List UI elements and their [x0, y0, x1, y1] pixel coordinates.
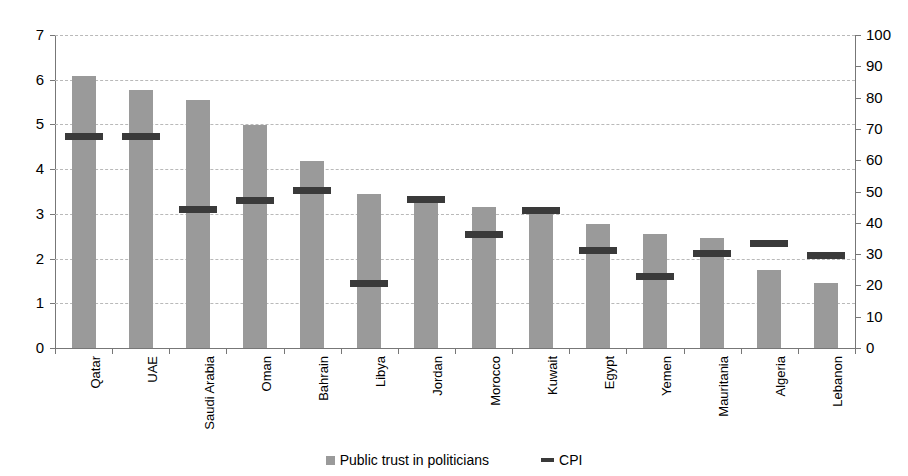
bar-public-trust: [72, 76, 96, 348]
y-axis-left-tick-label: 2: [0, 251, 44, 266]
y-axis-right-tick-mark: [856, 129, 861, 130]
legend-label-public-trust: Public trust in politicians: [340, 452, 489, 468]
y-axis-left-tick-label: 7: [0, 27, 44, 42]
x-axis-tick-mark: [855, 349, 856, 354]
cpi-marker: [579, 247, 617, 254]
bar-public-trust: [529, 210, 553, 348]
y-axis-right-tick-mark: [856, 348, 861, 349]
y-axis-left-tick-mark: [50, 35, 55, 36]
cpi-marker: [522, 207, 560, 214]
cpi-marker: [236, 197, 274, 204]
x-axis-tick-mark: [398, 349, 399, 354]
cpi-marker: [407, 196, 445, 203]
x-axis-category-label: Jordan: [431, 356, 444, 396]
y-axis-right-tick-mark: [856, 285, 861, 286]
y-axis-left-tick-label: 0: [0, 340, 44, 355]
plot-area: [55, 35, 855, 348]
bar-public-trust: [586, 224, 610, 348]
y-axis-right-tick-mark: [856, 192, 861, 193]
y-axis-left-tick-mark: [50, 169, 55, 170]
x-axis-tick-mark: [684, 349, 685, 354]
cpi-marker: [65, 133, 103, 140]
x-axis-category-label: Kuwait: [546, 356, 559, 395]
cpi-marker: [750, 240, 788, 247]
gridline: [55, 303, 855, 304]
cpi-marker: [350, 280, 388, 287]
y-axis-right-tick-mark: [856, 98, 861, 99]
bar-public-trust: [814, 283, 838, 348]
y-axis-left-tick-mark: [50, 303, 55, 304]
x-axis-tick-mark: [284, 349, 285, 354]
x-axis-tick-mark: [112, 349, 113, 354]
x-axis-tick-mark: [798, 349, 799, 354]
chart-title-cropped: [0, 0, 908, 9]
x-axis-tick-mark: [169, 349, 170, 354]
y-axis-right-tick-label: 90: [866, 58, 908, 73]
y-axis-right-tick-mark: [856, 317, 861, 318]
y-axis-right-tick-label: 60: [866, 152, 908, 167]
x-axis-category-label: Algeria: [774, 356, 787, 396]
bar-public-trust: [472, 207, 496, 348]
cpi-marker: [636, 273, 674, 280]
y-axis-right-tick-label: 50: [866, 184, 908, 199]
y-axis-right-tick-mark: [856, 254, 861, 255]
gridline: [55, 259, 855, 260]
x-axis-category-label: Egypt: [603, 356, 616, 389]
x-axis-category-label: UAE: [146, 356, 159, 383]
gridline: [55, 124, 855, 125]
bar-swatch-icon: [326, 456, 335, 465]
y-axis-right-tick-mark: [856, 66, 861, 67]
x-axis-category-label: Mauritania: [717, 356, 730, 417]
x-axis-tick-mark: [455, 349, 456, 354]
y-axis-right-tick-label: 70: [866, 121, 908, 136]
gridline: [55, 80, 855, 81]
x-axis-tick-mark: [226, 349, 227, 354]
bar-public-trust: [414, 200, 438, 348]
cpi-marker: [465, 231, 503, 238]
legend-item-public-trust: Public trust in politicians: [326, 452, 489, 468]
x-axis-category-label: Lebanon: [831, 356, 844, 407]
cpi-marker: [122, 133, 160, 140]
x-axis-tick-mark: [626, 349, 627, 354]
y-axis-left-tick-label: 5: [0, 116, 44, 131]
x-axis-category-label: Oman: [260, 356, 273, 391]
y-axis-right-tick-label: 100: [866, 27, 908, 42]
x-axis-tick-mark: [741, 349, 742, 354]
y-axis-left-tick-mark: [50, 124, 55, 125]
y-axis-right-tick-label: 30: [866, 246, 908, 261]
bar-public-trust: [129, 90, 153, 348]
y-axis-left-tick-mark: [50, 259, 55, 260]
y-axis-right-tick-label: 20: [866, 277, 908, 292]
x-axis-category-label: Saudi Arabia: [203, 356, 216, 430]
chart-legend: Public trust in politicians CPI: [0, 452, 908, 468]
legend-label-cpi: CPI: [559, 452, 582, 468]
legend-item-cpi: CPI: [541, 452, 582, 468]
y-axis-left-tick-mark: [50, 80, 55, 81]
cpi-marker: [179, 206, 217, 213]
y-axis-right-tick-label: 10: [866, 309, 908, 324]
x-axis-tick-mark: [512, 349, 513, 354]
y-axis-right-tick-mark: [856, 35, 861, 36]
bar-public-trust: [757, 270, 781, 348]
bar-public-trust: [643, 234, 667, 348]
x-axis-category-label: Bahrain: [317, 356, 330, 401]
x-axis-tick-mark: [569, 349, 570, 354]
gridline: [55, 214, 855, 215]
y-axis-left-tick-label: 3: [0, 206, 44, 221]
x-axis-category-label: Yemen: [660, 356, 673, 396]
x-axis-category-label: Morocco: [489, 356, 502, 406]
x-axis-tick-mark: [341, 349, 342, 354]
x-axis-category-label: Qatar: [89, 356, 102, 389]
gridline: [55, 35, 855, 36]
gridline: [55, 169, 855, 170]
cpi-marker: [693, 250, 731, 257]
y-axis-right-tick-label: 0: [866, 340, 908, 355]
y-axis-left-tick-label: 4: [0, 161, 44, 176]
bar-public-trust: [186, 100, 210, 348]
y-axis-left-tick-label: 1: [0, 295, 44, 310]
cpi-marker: [807, 252, 845, 259]
x-axis-tick-mark: [55, 349, 56, 354]
chart-container: 01234567 0102030405060708090100 QatarUAE…: [0, 0, 908, 476]
cpi-marker: [293, 187, 331, 194]
x-axis-category-label: Libya: [374, 356, 387, 387]
